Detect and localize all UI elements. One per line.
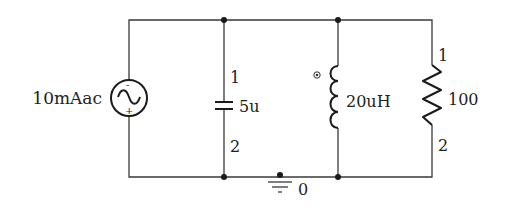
capacitor-pin2: 2 xyxy=(230,137,240,156)
ground-label: 0 xyxy=(298,180,308,199)
node-dot xyxy=(221,17,227,23)
inductor-coil-icon xyxy=(331,66,339,128)
circuit-schematic: - + 10mAac 1 5u 2 20uH 1 100 2 0 xyxy=(0,0,505,215)
source-plus: + xyxy=(125,105,133,116)
inductor-label: 20uH xyxy=(346,92,391,111)
source-minus: - xyxy=(126,79,129,90)
source-label: 10mAac xyxy=(32,88,102,108)
resistor-zigzag-icon xyxy=(423,65,441,125)
node-dot xyxy=(277,172,283,178)
node-dot xyxy=(335,17,341,23)
inductor: 20uH xyxy=(314,66,391,128)
ac-source: - + 10mAac xyxy=(32,79,147,116)
resistor-label: 100 xyxy=(448,90,479,109)
capacitor-pin1: 1 xyxy=(230,68,240,87)
node-dot xyxy=(221,174,227,180)
sine-wave-icon xyxy=(118,90,140,104)
resistor: 1 100 2 xyxy=(423,46,479,155)
bottom-wire xyxy=(129,117,432,177)
ground: 0 xyxy=(268,180,308,199)
top-wire xyxy=(129,20,432,80)
polarity-dot-center xyxy=(316,74,319,77)
capacitor-label: 5u xyxy=(239,97,259,116)
resistor-pin2: 2 xyxy=(438,136,448,155)
node-dot xyxy=(335,174,341,180)
capacitor: 1 5u 2 xyxy=(215,68,259,156)
resistor-pin1: 1 xyxy=(438,46,448,65)
